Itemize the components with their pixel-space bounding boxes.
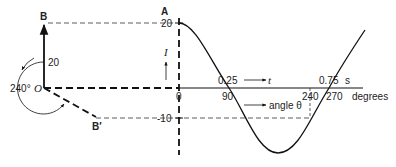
time-unit: s <box>345 75 350 86</box>
vector-b-magnitude: 20 <box>48 57 60 68</box>
vector-bprime-label: B′ <box>92 121 102 132</box>
rotation-arc <box>22 58 34 70</box>
time-axis-symbol: t <box>268 74 272 86</box>
rotation-angle-label: 240° <box>10 83 31 94</box>
phasor-group: B 20 O B′ 240° <box>10 11 102 132</box>
angle-tick-270: 270 <box>326 91 343 102</box>
angle-unit: degrees <box>352 91 388 102</box>
point-a-label: A <box>161 6 168 17</box>
phasor-waveform-diagram: B 20 O B′ 240° A 20 0 -10 I 0.25 t 0.75 … <box>0 0 396 167</box>
y-tick-minus10: -10 <box>157 113 172 124</box>
y-tick-20: 20 <box>161 18 173 29</box>
origin-label: O <box>34 82 42 94</box>
vector-b-label: B <box>40 11 47 22</box>
angle-axis-label: angle θ <box>269 100 302 111</box>
y-axis-symbol: I <box>163 46 169 58</box>
angle-tick-240: 240 <box>302 91 319 102</box>
y-tick-0: 0 <box>176 91 182 102</box>
time-tick-025: 0.25 <box>218 75 238 86</box>
